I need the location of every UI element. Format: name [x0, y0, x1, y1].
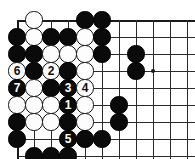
- move-number-4: 4: [76, 79, 93, 96]
- go-board-diagram: 6273415: [0, 0, 195, 159]
- move-number-7: 7: [8, 79, 25, 96]
- move-number-6: 6: [8, 62, 25, 79]
- board-move-numbers: 6273415: [0, 0, 195, 159]
- move-number-5: 5: [59, 130, 76, 147]
- move-number-2: 2: [42, 62, 59, 79]
- move-number-3: 3: [59, 79, 76, 96]
- move-number-1: 1: [59, 96, 76, 113]
